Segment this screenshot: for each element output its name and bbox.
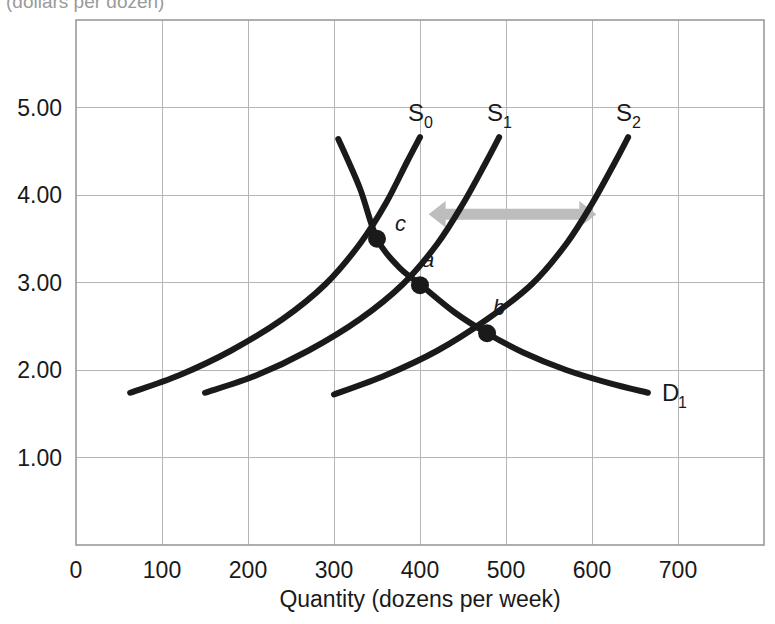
x-tick-label: 0 (70, 557, 83, 583)
curve-label-letter: S (487, 99, 503, 126)
equilibrium-point-a (411, 276, 429, 294)
curve-label-subscript: 2 (632, 114, 641, 131)
x-tick-label: 600 (573, 557, 611, 583)
x-axis-title: Quantity (dozens per week) (279, 586, 560, 612)
y-axis-unit-note: (dollars per dozen) (6, 0, 164, 13)
curve-label-subscript: 1 (503, 114, 512, 131)
y-tick-label: 5.00 (17, 95, 62, 121)
chart-background (0, 0, 775, 624)
curve-label-subscript: 0 (424, 114, 433, 131)
point-label-a: a (422, 247, 434, 272)
point-label-c: c (395, 211, 406, 236)
y-tick-label: 4.00 (17, 182, 62, 208)
y-tick-label: 2.00 (17, 357, 62, 383)
equilibrium-point-b (478, 324, 496, 342)
equilibrium-point-c (368, 230, 386, 248)
supply-demand-chart: cab S0S1S2D1 0100200300400500600700 1.00… (0, 0, 775, 624)
x-tick-label: 300 (315, 557, 353, 583)
curve-label-letter: D (662, 379, 679, 406)
x-tick-label: 200 (229, 557, 267, 583)
x-tick-label: 500 (487, 557, 525, 583)
chart-figure: (dollars per dozen) cab S0S1S2D1 0100200… (0, 0, 775, 624)
y-tick-label: 1.00 (17, 445, 62, 471)
x-tick-label: 700 (659, 557, 697, 583)
curve-label-letter: S (616, 99, 632, 126)
x-tick-label: 100 (143, 557, 181, 583)
curve-label-letter: S (408, 99, 424, 126)
point-label-b: b (493, 295, 505, 320)
y-tick-label: 3.00 (17, 270, 62, 296)
curve-label-subscript: 1 (678, 394, 687, 411)
x-tick-label: 400 (401, 557, 439, 583)
